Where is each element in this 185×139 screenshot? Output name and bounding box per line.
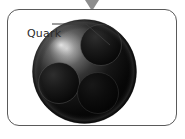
- figure-root: Quark: [0, 0, 185, 139]
- diagram-panel: Quark: [7, 9, 177, 126]
- quark-label: Quark: [27, 28, 61, 40]
